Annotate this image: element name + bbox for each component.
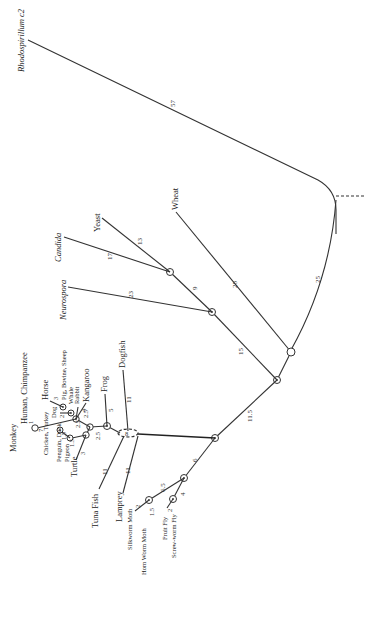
value-hornworm-branch: 1.5 [148, 508, 155, 516]
branch-root-eukaryote [291, 200, 336, 350]
branch-insect-stem [184, 438, 215, 478]
branch-plant-to-fungianimal [278, 356, 289, 378]
label-pig-bovine-sheep: Pig, Bovine, Sheep [60, 350, 67, 400]
value-root-branch: 25 [314, 276, 322, 284]
value-dogfish-branch: 11 [125, 396, 133, 403]
value-monkey-branch: 1 [27, 421, 34, 424]
label-screw-worm-fly: Screw-worm Fly [170, 513, 177, 558]
value-yeast-candida-stem: 9 [191, 286, 199, 290]
label-dog: Dog [50, 406, 57, 418]
branch-horse [50, 401, 63, 407]
branch-tuna [99, 436, 124, 489]
label-rhodospirillum: Rhodospirillum c2 [16, 8, 26, 73]
phylogenetic-tree: Rhodospirillum c2 57 25 Wheat 28 15 Neur… [0, 0, 375, 635]
value-yeast-branch: 13 [136, 238, 144, 246]
value-lamprey-branch: 11 [124, 467, 132, 474]
value-silkworm-branch: 2 [134, 505, 141, 508]
label-wheat: Wheat [170, 187, 180, 210]
label-lamprey: Lamprey [114, 491, 124, 522]
node-plant-fork [287, 348, 295, 356]
branch-lamprey [123, 436, 138, 493]
branch-animal-stem [215, 380, 277, 438]
label-frog: Frog [99, 375, 109, 392]
value-wheat-branch: 28 [231, 281, 239, 289]
label-chicken-turkey: Chicken, Turkey [42, 411, 49, 455]
value-horse-branch: 3 [52, 397, 59, 400]
label-penguin-duck: Penguin, Duck [55, 423, 62, 462]
value-fly-stem: 4 [179, 492, 187, 496]
value-kangaroo-branch: 4 [80, 408, 87, 412]
value-frog-branch: 5 [107, 408, 115, 412]
label-candida: Candida [53, 233, 63, 262]
label-whale: Whale [67, 387, 74, 404]
label-monkey: Monkey [8, 423, 18, 452]
value-turtle-branch: 3 [79, 452, 86, 455]
label-tuna-fish: Tuna Fish [90, 493, 100, 528]
value-candida-branch: 17 [106, 253, 114, 261]
value-pigeon-branch: 1.5 [68, 439, 75, 447]
value-moth-stem: 6.5 [159, 483, 167, 492]
branch-vertebrate-stem [138, 434, 215, 438]
label-dogfish: Dogfish [117, 340, 127, 368]
value-bird-stem: 2.5 [74, 420, 81, 428]
label-yeast: Yeast [92, 213, 102, 232]
label-kangaroo: Kangaroo [81, 368, 91, 402]
node-primate [32, 425, 38, 431]
label-turtle: Turtle [69, 456, 79, 477]
label-rabbit: Rabbit [73, 386, 80, 404]
label-human-chimpanzee: Human, Chimpanzee [19, 352, 29, 424]
value-vert-marker: 8 [125, 430, 128, 437]
value-insect-stem: 6 [191, 458, 199, 462]
value-animal-stem: 11.5 [246, 410, 254, 422]
label-fruit-fly: Fruit Fly [161, 516, 168, 540]
label-horse: Horse [40, 379, 50, 400]
value-rhodospirillum-branch: 57 [169, 100, 177, 108]
value-dog-branch: 2 [58, 415, 65, 418]
value-fruitfly-branch: 2 [166, 509, 173, 512]
value-amniote-stem: 2.5 [94, 432, 101, 440]
branch-turtle [76, 435, 86, 460]
branch-fungi-stem [212, 312, 277, 380]
label-neurospora: Neurospora [58, 280, 68, 321]
label-silkworm-moth: Silkworm Moth [126, 508, 133, 550]
value-tuna-branch: 11 [101, 468, 109, 475]
value-fungi-stem: 15 [237, 348, 245, 356]
branch-candida [64, 237, 170, 272]
value-neurospora-branch: 23 [127, 291, 135, 299]
branch-rhodospirillum [28, 40, 336, 234]
label-horn-worm-moth: Horn Worm Moth [140, 528, 147, 575]
